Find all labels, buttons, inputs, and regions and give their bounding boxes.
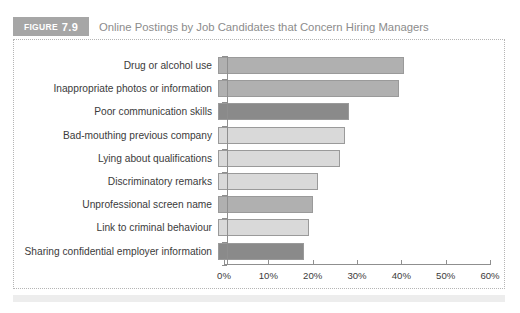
- bar-segment: [218, 103, 349, 120]
- axis-tick-label: 20%: [303, 270, 322, 281]
- axis-tick-label: 30%: [347, 270, 366, 281]
- bar-segment: [218, 80, 399, 97]
- bar-segment: [218, 243, 304, 260]
- bar-track: [218, 149, 490, 168]
- value-axis: 0%10%20%30%40%50%60%: [224, 264, 490, 290]
- bar-segment: [218, 219, 309, 236]
- bar-track: [218, 56, 490, 75]
- category-tick: [222, 218, 227, 219]
- axis-tick: [357, 260, 358, 265]
- bar-category-label: Discriminatory remarks: [16, 176, 218, 187]
- bar-segment: [218, 150, 340, 167]
- category-tick: [222, 172, 227, 173]
- bar-track: [218, 195, 490, 214]
- bar-chart: Drug or alcohol useInappropriate photos …: [0, 0, 520, 313]
- category-tick: [222, 149, 227, 150]
- bar-row: Poor communication skills: [16, 102, 490, 121]
- axis-tick: [268, 260, 269, 265]
- axis-tick-label: 0%: [217, 270, 231, 281]
- bar-category-label: Sharing confidential employer informatio…: [16, 246, 218, 257]
- bar-segment: [218, 127, 345, 144]
- category-tick: [222, 102, 227, 103]
- axis-tick-label: 60%: [480, 270, 499, 281]
- bar-category-label: Drug or alcohol use: [16, 60, 218, 71]
- bar-category-label: Inappropriate photos or information: [16, 83, 218, 94]
- category-tick: [222, 56, 227, 57]
- bar-segment: [218, 57, 404, 74]
- bar-segment: [218, 173, 318, 190]
- footer-band: [13, 295, 505, 302]
- chart-plot-area: Drug or alcohol useInappropriate photos …: [16, 56, 490, 265]
- bar-row: Sharing confidential employer informatio…: [16, 242, 490, 261]
- category-tick: [222, 126, 227, 127]
- axis-tick: [224, 260, 225, 265]
- bar-category-label: Poor communication skills: [16, 106, 218, 117]
- bar-track: [218, 242, 490, 261]
- axis-tick-label: 50%: [436, 270, 455, 281]
- bar-segment: [218, 196, 313, 213]
- bar-category-label: Unprofessional screen name: [16, 199, 218, 210]
- axis-tick: [313, 260, 314, 265]
- bar-row: Bad-mouthing previous company: [16, 126, 490, 145]
- axis-tick: [401, 260, 402, 265]
- bar-category-label: Link to criminal behaviour: [16, 222, 218, 233]
- category-tick: [222, 242, 227, 243]
- category-axis-line: [227, 56, 228, 265]
- bar-track: [218, 126, 490, 145]
- bar-category-label: Lying about qualifications: [16, 153, 218, 164]
- axis-tick: [446, 260, 447, 265]
- axis-tick: [490, 260, 491, 265]
- bar-track: [218, 79, 490, 98]
- category-axis: [222, 56, 228, 265]
- bar-row: Inappropriate photos or information: [16, 79, 490, 98]
- axis-tick-label: 10%: [259, 270, 278, 281]
- bar-row: Link to criminal behaviour: [16, 218, 490, 237]
- bar-track: [218, 218, 490, 237]
- bar-category-label: Bad-mouthing previous company: [16, 130, 218, 141]
- category-tick: [222, 79, 227, 80]
- bar-row: Discriminatory remarks: [16, 172, 490, 191]
- category-tick: [222, 195, 227, 196]
- bar-track: [218, 102, 490, 121]
- bar-row: Lying about qualifications: [16, 149, 490, 168]
- bar-row: Drug or alcohol use: [16, 56, 490, 75]
- bar-track: [218, 172, 490, 191]
- bar-row: Unprofessional screen name: [16, 195, 490, 214]
- axis-tick-label: 40%: [392, 270, 411, 281]
